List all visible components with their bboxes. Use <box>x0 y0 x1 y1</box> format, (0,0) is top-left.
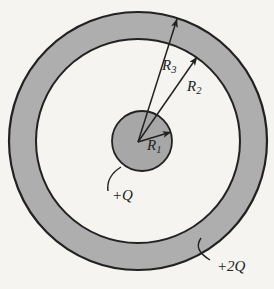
concentric-spheres-figure: R3 R2 R1 +Q +2Q <box>0 0 274 289</box>
radius-label-r1-base: R <box>146 137 156 153</box>
radius-label-r2-subscript: 2 <box>196 85 202 96</box>
radius-label-r3-subscript: 3 <box>170 64 176 75</box>
radius-label-r1-subscript: 1 <box>156 144 161 155</box>
radius-label-r2-base: R <box>186 78 196 94</box>
radius-label-r3-base: R <box>161 57 171 73</box>
charge-label-outer-shell: +2Q <box>217 258 246 274</box>
charge-label-inner-sphere: +Q <box>112 187 133 203</box>
figure-canvas: R3 R2 R1 +Q +2Q <box>0 0 274 289</box>
